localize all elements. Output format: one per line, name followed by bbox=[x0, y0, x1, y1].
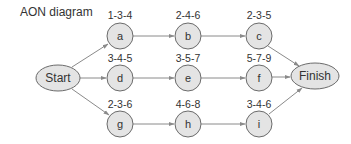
time-estimate-f: 5-7-9 bbox=[247, 52, 272, 64]
time-estimate-b: 2-4-6 bbox=[176, 9, 201, 21]
node-i: 3-4-6 i bbox=[246, 98, 272, 137]
edge-c-finish bbox=[268, 46, 299, 66]
activity-label-h: h bbox=[185, 118, 191, 130]
time-estimate-i: 3-4-6 bbox=[247, 98, 272, 110]
node-a: 1-3-4 a bbox=[107, 9, 133, 49]
node-g: 2-3-6 g bbox=[107, 98, 133, 137]
node-e: 3-5-7 e bbox=[175, 52, 201, 91]
activity-label-i: i bbox=[258, 118, 260, 130]
start-label: Start bbox=[45, 71, 71, 85]
time-estimate-h: 4-6-8 bbox=[176, 98, 201, 110]
edge-start-g bbox=[72, 89, 109, 115]
activity-label-b: b bbox=[185, 30, 191, 42]
time-estimate-a: 1-3-4 bbox=[108, 9, 133, 21]
node-f: 5-7-9 f bbox=[246, 52, 272, 91]
time-estimate-e: 3-5-7 bbox=[176, 52, 201, 64]
edge-start-a bbox=[72, 44, 108, 67]
node-c: 2-3-5 c bbox=[246, 9, 272, 49]
activity-label-d: d bbox=[117, 72, 123, 84]
diagram-title: AON diagram bbox=[20, 5, 93, 19]
finish-label: Finish bbox=[299, 69, 331, 83]
time-estimate-c: 2-3-5 bbox=[247, 9, 272, 21]
node-start: Start bbox=[36, 65, 80, 91]
time-estimate-g: 2-3-6 bbox=[108, 98, 133, 110]
aon-diagram: AON diagram Start Finish 1-3-4 a 2-4-6 b bbox=[0, 0, 351, 144]
edge-i-finish bbox=[269, 88, 302, 114]
node-h: 4-6-8 h bbox=[175, 98, 201, 137]
node-b: 2-4-6 b bbox=[175, 9, 201, 49]
activity-label-e: e bbox=[185, 72, 191, 84]
node-finish: Finish bbox=[291, 63, 339, 89]
activity-label-a: a bbox=[117, 30, 124, 42]
activity-label-c: c bbox=[256, 30, 262, 42]
time-estimate-d: 3-4-5 bbox=[108, 52, 133, 64]
node-d: 3-4-5 d bbox=[107, 52, 133, 91]
activity-label-g: g bbox=[117, 118, 123, 130]
